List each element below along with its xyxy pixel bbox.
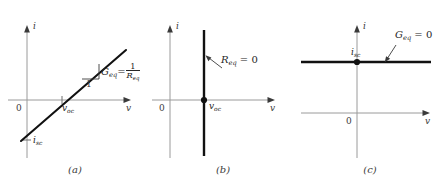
panel-caption-b: (b) bbox=[148, 164, 298, 175]
panel-caption-c: (c) bbox=[295, 164, 445, 175]
conductance-equation-c: Geq = 0 bbox=[395, 30, 432, 41]
isc-label-c: isc bbox=[351, 48, 360, 58]
isc-subscript-a: sc bbox=[36, 139, 42, 146]
figure-iv-characteristics: i v 0 voc isc 1 Geq=1Req (a) bbox=[0, 0, 445, 183]
origin-label-c: 0 bbox=[346, 117, 352, 126]
isc-subscript-c: sc bbox=[354, 51, 360, 58]
origin-label-b: 0 bbox=[159, 104, 165, 113]
v-axis-label-a: v bbox=[126, 104, 131, 113]
annotation-arrow-b bbox=[206, 55, 223, 68]
voc-point-b bbox=[201, 97, 207, 103]
slope-equation-a: Geq=1Req bbox=[101, 62, 140, 81]
isc-label-a: isc bbox=[33, 136, 42, 146]
voc-subscript-b: oc bbox=[214, 105, 221, 112]
i-axis-b bbox=[167, 25, 173, 158]
voc-label-a: voc bbox=[62, 104, 74, 114]
req-value-b: 0 bbox=[251, 54, 257, 65]
geq-subscript-c: eq bbox=[403, 34, 411, 42]
slope-run-label-a: 1 bbox=[86, 80, 92, 89]
panel-b: i v 0 voc Req = 0 (b) bbox=[148, 0, 298, 183]
i-axis-c bbox=[354, 25, 360, 158]
req-symbol-b: R bbox=[221, 54, 229, 65]
voc-label-b: voc bbox=[209, 102, 221, 112]
v-axis-label-c: v bbox=[425, 117, 430, 126]
reciprocal-fraction-a: 1Req bbox=[126, 62, 141, 81]
v-axis-c bbox=[301, 110, 430, 116]
voc-subscript-a: oc bbox=[67, 107, 74, 114]
origin-label-a: 0 bbox=[16, 104, 22, 113]
i-axis-label-c: i bbox=[363, 22, 366, 31]
panel-a: i v 0 voc isc 1 Geq=1Req (a) bbox=[0, 0, 150, 183]
equals-sign-c: = bbox=[414, 29, 422, 40]
panel-c: i v 0 isc Geq = 0 (c) bbox=[295, 0, 445, 183]
i-axis-label-b: i bbox=[176, 22, 179, 31]
req-subscript-a: eq bbox=[133, 75, 140, 81]
geq-value-c: 0 bbox=[426, 29, 432, 40]
i-axis-label-a: i bbox=[33, 22, 36, 31]
panel-caption-a: (a) bbox=[0, 164, 150, 175]
equals-sign-a: = bbox=[117, 66, 125, 77]
geq-symbol-c: G bbox=[395, 29, 403, 40]
v-axis-label-b: v bbox=[270, 104, 275, 113]
isc-point-c bbox=[354, 59, 360, 65]
geq-subscript-a: eq bbox=[109, 71, 117, 79]
equals-sign-b: = bbox=[240, 54, 248, 65]
fraction-denominator-a: Req bbox=[126, 71, 141, 81]
req-subscript-b: eq bbox=[229, 59, 237, 67]
resistance-equation-b: Req = 0 bbox=[221, 55, 258, 66]
geq-symbol-a: G bbox=[101, 66, 109, 77]
annotation-arrow-c bbox=[385, 45, 396, 62]
